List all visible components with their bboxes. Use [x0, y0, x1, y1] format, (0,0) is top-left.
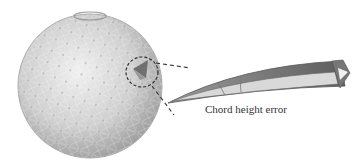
tessellated-sphere — [18, 12, 162, 158]
diagram: Chord height error — [0, 0, 362, 167]
chord-height-error-label: Chord height error — [205, 103, 287, 115]
diagram-canvas — [0, 0, 362, 167]
enlarged-facet-wedge — [168, 60, 350, 103]
